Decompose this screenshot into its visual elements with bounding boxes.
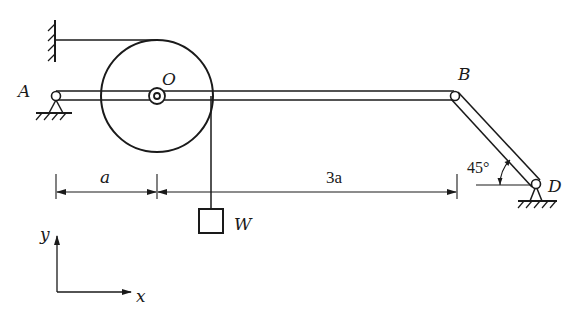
label-O: O: [162, 69, 176, 89]
wall-support: [48, 20, 157, 62]
pin-O: [149, 88, 165, 104]
beam-AB: [56, 91, 454, 100]
label-angle: 45°: [467, 159, 489, 176]
label-dim-a: a: [100, 167, 110, 187]
mechanism-diagram: A O B D W a 3a 45° y x: [0, 0, 578, 319]
label-y-axis: y: [39, 224, 50, 244]
pin-B: [451, 92, 460, 101]
bar-BD: [451, 92, 540, 187]
label-x-axis: x: [136, 286, 146, 306]
label-A: A: [16, 81, 30, 101]
xy-axes: [57, 236, 131, 292]
label-W: W: [234, 214, 253, 234]
label-B: B: [457, 64, 471, 84]
pin-support-A: [36, 92, 72, 121]
label-dim-3a: 3a: [326, 168, 343, 187]
dimension-lines: [56, 174, 457, 199]
weight-block: [199, 209, 223, 233]
label-D: D: [547, 176, 562, 196]
